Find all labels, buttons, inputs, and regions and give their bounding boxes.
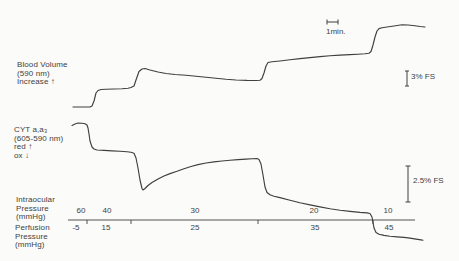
blood-volume-trace (73, 25, 425, 107)
cytochrome-trace (72, 123, 423, 240)
cytochrome-channel-label: CYT a,a₃ (605-590 nm) red ↑ ox ↓ (14, 126, 63, 160)
perfusion-pressure-label: Perfusion Pressure (mmHg) (15, 224, 50, 250)
time-scale-bar-label: 1min. (326, 28, 346, 36)
blood-volume-label-line3: Increase ↑ (17, 78, 68, 87)
blood-volume-fs-bar-label: 3% FS (411, 73, 435, 81)
iop-value-60: 60 (77, 207, 86, 215)
recording-figure: Blood Volume (590 nm) Increase ↑ CYT a,a… (0, 0, 459, 261)
perfusion-value-35: 35 (311, 224, 320, 232)
perfusion-value-15: 15 (102, 224, 111, 232)
cytochrome-fs-bar-label: 2.5% FS (413, 177, 444, 185)
recording-svg (0, 0, 459, 261)
iop-value-20: 20 (310, 207, 319, 215)
intraocular-pressure-label: Intraocular Pressure (mmHg) (16, 196, 55, 222)
iop-value-30: 30 (191, 207, 200, 215)
cytochrome-label-line4: ox ↓ (14, 152, 63, 161)
perfusion-value-45: 45 (385, 224, 394, 232)
perfusion-label-line3: (mmHg) (15, 241, 50, 250)
perfusion-value-neg5: -5 (72, 224, 79, 232)
intraocular-label-line3: (mmHg) (16, 213, 55, 222)
iop-value-40: 40 (103, 207, 112, 215)
blood-volume-channel-label: Blood Volume (590 nm) Increase ↑ (17, 61, 68, 87)
perfusion-value-25: 25 (191, 224, 200, 232)
iop-value-10: 10 (384, 207, 393, 215)
